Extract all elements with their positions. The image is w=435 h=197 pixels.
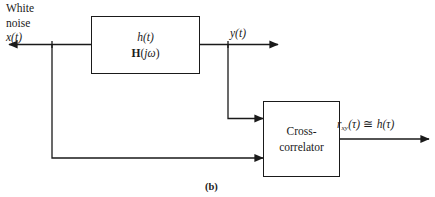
figure-caption-text: (b) (205, 181, 218, 192)
white-noise-line2: noise (6, 16, 34, 31)
cross-correlator-block: Cross- correlator (263, 101, 340, 177)
filter-block: h(t) H(jω) (91, 16, 200, 74)
cross-correlator-line2: correlator (267, 139, 336, 155)
output-branch-wire (228, 45, 263, 119)
figure-canvas: White noise x(t) y(t) h(t) H(jω) Cross- … (0, 0, 435, 197)
result-rhs-arg: (τ) (383, 118, 395, 130)
filter-transfer-function-label: H(jω) (92, 45, 199, 61)
cross-correlator-line1: Cross- (267, 123, 336, 139)
filter-transfer-function-arg-omega: ω (148, 47, 156, 59)
result-arg: (τ) (348, 118, 360, 130)
white-noise-line1: White (6, 1, 34, 16)
wiring-diagram (0, 0, 435, 197)
result-relation: ≅ (363, 118, 373, 130)
input-signal-text: x(t) (6, 31, 22, 43)
filter-impulse-response-text: h(t) (137, 31, 154, 43)
figure-caption: (b) (205, 180, 218, 194)
filter-impulse-response-label: h(t) (92, 29, 199, 45)
output-signal-text: y(t) (230, 27, 246, 39)
cross-correlator-block-content: Cross- correlator (264, 123, 339, 156)
result-signal-label: rxy(τ) ≅ h(τ) (337, 117, 394, 133)
filter-block-content: h(t) H(jω) (92, 29, 199, 62)
input-signal-label: x(t) (6, 30, 22, 45)
output-signal-label: y(t) (230, 26, 246, 41)
white-noise-source-label: White noise (6, 1, 34, 31)
